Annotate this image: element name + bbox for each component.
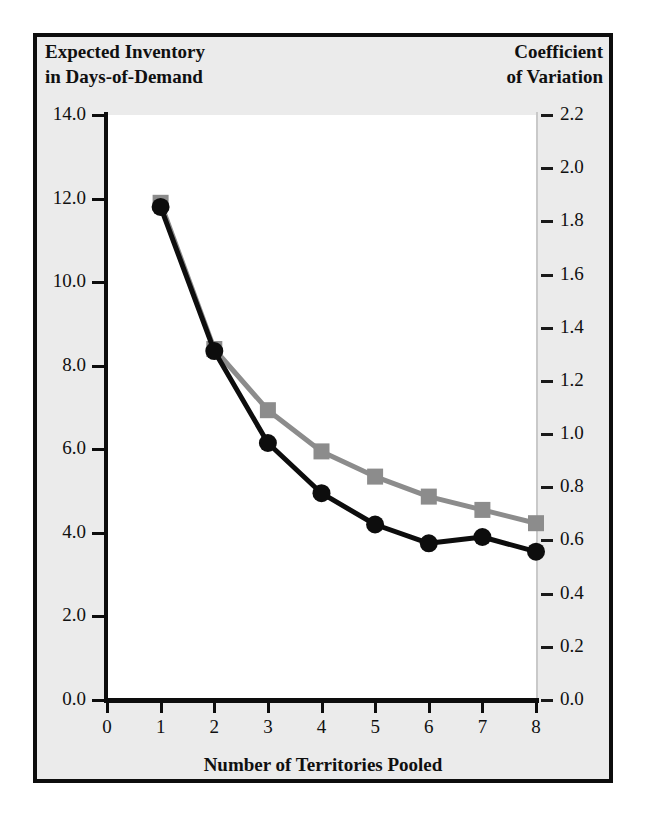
y-axis-right-tick-label: 2.2 bbox=[560, 103, 618, 125]
x-axis-tick-label: 2 bbox=[199, 716, 229, 738]
series-marker-circle bbox=[259, 434, 277, 452]
y-axis-left-tick bbox=[92, 448, 105, 451]
y-axis-right-tick bbox=[541, 699, 553, 702]
x-axis-tick bbox=[481, 700, 484, 713]
series-marker-circle bbox=[205, 342, 223, 360]
x-axis-tick-label: 8 bbox=[521, 716, 551, 738]
y-axis-left-tick-label: 4.0 bbox=[28, 521, 86, 543]
x-axis-tick-label: 3 bbox=[253, 716, 283, 738]
x-axis-tick bbox=[160, 700, 163, 713]
x-axis-tick-label: 4 bbox=[307, 716, 337, 738]
y-axis-right-tick bbox=[541, 274, 553, 277]
y-axis-right-tick bbox=[541, 167, 553, 170]
y-axis-left-tick bbox=[92, 281, 105, 284]
x-axis-tick bbox=[106, 700, 109, 713]
x-axis-tick-label: 0 bbox=[92, 716, 122, 738]
x-axis-tick bbox=[267, 700, 270, 713]
x-axis-tick bbox=[321, 700, 324, 713]
y-axis-right-tick bbox=[541, 433, 553, 436]
x-axis-tick bbox=[213, 700, 216, 713]
y-axis-left-tick bbox=[92, 114, 105, 117]
x-axis-tick bbox=[374, 700, 377, 713]
y-axis-right-tick-label: 2.0 bbox=[560, 156, 618, 178]
chart-figure: Expected Inventory in Days-of-Demand Coe… bbox=[0, 0, 646, 817]
series-marker-circle bbox=[366, 516, 384, 534]
y-axis-left-tick-label: 12.0 bbox=[28, 187, 86, 209]
y-axis-left-tick bbox=[92, 365, 105, 368]
y-axis-right-tick-label: 0.4 bbox=[560, 582, 618, 604]
y-axis-right-tick bbox=[541, 114, 553, 117]
x-axis-tick-label: 6 bbox=[414, 716, 444, 738]
y-axis-left-tick-label: 2.0 bbox=[28, 604, 86, 626]
x-axis-tick-label: 7 bbox=[467, 716, 497, 738]
y-axis-right-tick bbox=[541, 646, 553, 649]
y-axis-left-tick-label: 0.0 bbox=[28, 688, 86, 710]
series-marker-circle bbox=[473, 528, 491, 546]
x-axis-tick bbox=[428, 700, 431, 713]
y-axis-left-tick bbox=[92, 615, 105, 618]
series-marker-circle bbox=[420, 534, 438, 552]
y-axis-right-tick bbox=[541, 593, 553, 596]
x-axis-tick-label: 1 bbox=[146, 716, 176, 738]
y-axis-right-tick-label: 0.8 bbox=[560, 475, 618, 497]
y-axis-left-tick-label: 10.0 bbox=[28, 270, 86, 292]
y-axis-right-tick-label: 1.4 bbox=[560, 316, 618, 338]
series-marker-square bbox=[474, 502, 490, 518]
series-marker-square bbox=[260, 402, 276, 418]
y-axis-left-tick-label: 8.0 bbox=[28, 354, 86, 376]
y-axis-right-tick bbox=[541, 220, 553, 223]
series-line bbox=[161, 203, 536, 523]
series-marker-circle bbox=[313, 484, 331, 502]
y-axis-right-tick-label: 0.6 bbox=[560, 528, 618, 550]
y-axis-right-tick bbox=[541, 539, 553, 542]
y-axis-right-tick-label: 1.8 bbox=[560, 209, 618, 231]
y-axis-right-tick bbox=[541, 486, 553, 489]
series-marker-square bbox=[367, 469, 383, 485]
y-axis-right-tick bbox=[541, 327, 553, 330]
y-axis-left-tick bbox=[92, 198, 105, 201]
series-layer bbox=[0, 0, 646, 817]
x-axis-tick-label: 5 bbox=[360, 716, 390, 738]
y-axis-right-tick-label: 1.2 bbox=[560, 369, 618, 391]
x-axis-tick bbox=[535, 700, 538, 713]
series-marker-square bbox=[528, 515, 544, 531]
y-axis-right-tick-label: 1.6 bbox=[560, 263, 618, 285]
series-marker-circle bbox=[152, 198, 170, 216]
y-axis-right-tick bbox=[541, 380, 553, 383]
y-axis-right-tick-label: 0.2 bbox=[560, 635, 618, 657]
y-axis-left-tick-label: 14.0 bbox=[28, 103, 86, 125]
series-line bbox=[161, 207, 536, 552]
y-axis-right-tick-label: 1.0 bbox=[560, 422, 618, 444]
y-axis-right-tick-label: 0.0 bbox=[560, 688, 618, 710]
y-axis-left-tick-label: 6.0 bbox=[28, 437, 86, 459]
series-marker-square bbox=[314, 443, 330, 459]
series-marker-square bbox=[421, 489, 437, 505]
series-marker-circle bbox=[527, 543, 545, 561]
y-axis-left-tick bbox=[92, 699, 105, 702]
y-axis-left-tick bbox=[92, 532, 105, 535]
x-axis-title: Number of Territories Pooled bbox=[0, 752, 646, 777]
